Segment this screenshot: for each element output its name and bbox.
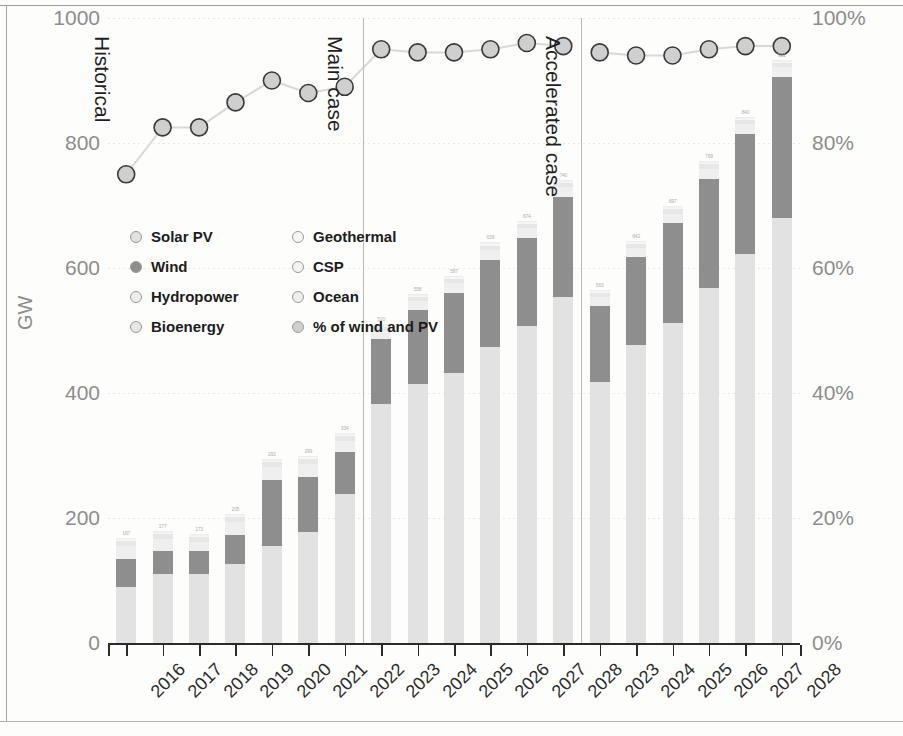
bar-stack: 563 bbox=[590, 290, 610, 643]
bar-segment-bioenergy bbox=[772, 63, 792, 67]
x-axis-tick bbox=[600, 645, 602, 656]
circle-marker-icon bbox=[292, 231, 304, 243]
bar-segment-geothermal bbox=[153, 533, 173, 534]
legend-item[interactable]: % of wind and PV bbox=[292, 318, 438, 335]
bar-segment-csp bbox=[116, 539, 136, 540]
bar-segment-geothermal bbox=[189, 536, 209, 537]
bar-segment-solar-pv bbox=[262, 546, 282, 644]
bar-value-label: 674 bbox=[523, 214, 531, 219]
x-axis-tick-label: 2023 bbox=[620, 659, 663, 702]
y-axis-left: 02004006008001000 bbox=[0, 0, 100, 736]
bar-segment-wind bbox=[262, 480, 282, 546]
page-frame-bottom-rule bbox=[0, 721, 903, 722]
x-axis-tick-label: 2017 bbox=[183, 659, 226, 702]
x-axis-tick-label: 2020 bbox=[293, 659, 336, 702]
bar-stack: 177 bbox=[153, 531, 173, 643]
legend-item[interactable]: Bioenergy bbox=[130, 318, 280, 335]
x-axis-tick bbox=[418, 645, 420, 656]
bar-segment-ocean bbox=[116, 538, 136, 539]
legend-item[interactable]: Geothermal bbox=[292, 228, 438, 245]
x-axis-end-tick bbox=[108, 645, 110, 656]
bar-segment-hydropower bbox=[663, 214, 683, 223]
bar-segment-hydropower bbox=[517, 228, 537, 238]
bar-segment-wind bbox=[116, 559, 136, 587]
bar-stack: 334 bbox=[335, 433, 355, 643]
bar-segment-ocean bbox=[663, 206, 683, 207]
legend-item[interactable]: Solar PV bbox=[130, 228, 280, 245]
bar-stack: 769 bbox=[699, 161, 719, 643]
bar-segment-bioenergy bbox=[153, 534, 173, 539]
bar-segment-ocean bbox=[517, 221, 537, 222]
bar-segment-solar-pv bbox=[335, 494, 355, 643]
bar-segment-wind bbox=[371, 339, 391, 405]
x-axis-tick bbox=[199, 645, 201, 656]
bar-segment-ocean bbox=[626, 241, 646, 242]
bar-segment-solar-pv bbox=[408, 384, 428, 643]
bar-stack: 840 bbox=[735, 117, 755, 643]
bar-segment-wind bbox=[590, 306, 610, 382]
bar-segment-hydropower bbox=[262, 467, 282, 480]
legend-item-label: Hydropower bbox=[151, 288, 239, 305]
x-axis-tick-label: 2016 bbox=[147, 659, 190, 702]
legend-item[interactable]: Hydropower bbox=[130, 288, 280, 305]
x-axis-tick bbox=[782, 645, 784, 656]
bar-segment-geothermal bbox=[444, 277, 464, 278]
bar-segment-hydropower bbox=[480, 250, 500, 260]
bar-stack: 292 bbox=[262, 459, 282, 643]
bar-segment-csp bbox=[189, 535, 209, 536]
legend-item-label: CSP bbox=[313, 258, 344, 275]
bar-segment-bioenergy bbox=[517, 224, 537, 228]
bar-segment-solar-pv bbox=[517, 326, 537, 644]
x-axis-tick bbox=[673, 645, 675, 656]
bar-segment-bioenergy bbox=[735, 120, 755, 124]
bar-segment-hydropower bbox=[590, 297, 610, 305]
bar-stack: 205 bbox=[225, 514, 245, 643]
x-axis-tick-label: 2018 bbox=[220, 659, 263, 702]
percent-line-marker bbox=[482, 41, 499, 58]
y-axis-right: 0%20%40%60%80%100% bbox=[812, 0, 902, 736]
y-axis-right-tick-label: 60% bbox=[812, 256, 854, 280]
bar-segment-solar-pv bbox=[189, 574, 209, 643]
bar-segment-solar-pv bbox=[663, 323, 683, 643]
page-frame-top-rule bbox=[0, 5, 903, 6]
legend-item[interactable]: Ocean bbox=[292, 288, 438, 305]
bar-stack: 931 bbox=[772, 60, 792, 643]
bar-segment-solar-pv bbox=[225, 564, 245, 643]
x-axis-tick bbox=[235, 645, 237, 656]
x-axis-tick-label: 2024 bbox=[657, 659, 700, 702]
bar-segment-geothermal bbox=[772, 62, 792, 63]
bar-segment-ocean bbox=[699, 161, 719, 162]
bar-segment-ocean bbox=[590, 290, 610, 291]
bar-stack: 639 bbox=[480, 242, 500, 643]
x-axis-tick bbox=[527, 645, 529, 656]
bar-segment-wind bbox=[517, 238, 537, 326]
percent-line-marker bbox=[700, 41, 717, 58]
x-axis-tick-label: 2021 bbox=[329, 659, 372, 702]
bar-segment-csp bbox=[335, 434, 355, 435]
bar-segment-geothermal bbox=[699, 163, 719, 164]
y-axis-left-tick-label: 200 bbox=[65, 506, 100, 530]
y-axis-right-tick-label: 40% bbox=[812, 381, 854, 405]
bar-value-label: 563 bbox=[596, 283, 604, 288]
bar-segment-wind bbox=[335, 452, 355, 494]
bar-segment-ocean bbox=[262, 459, 282, 460]
circle-marker-icon bbox=[292, 321, 304, 333]
bar-segment-wind bbox=[553, 197, 573, 297]
bar-stack: 697 bbox=[663, 206, 683, 643]
x-axis-tick bbox=[272, 645, 274, 656]
x-axis-tick bbox=[490, 645, 492, 656]
x-axis-tick-label: 2022 bbox=[365, 659, 408, 702]
bar-stack: 167 bbox=[116, 538, 136, 643]
gridline bbox=[108, 143, 800, 144]
scenario-caption: Main case bbox=[323, 36, 347, 132]
bar-stack: 299 bbox=[298, 456, 318, 644]
legend-item[interactable]: Wind bbox=[130, 258, 280, 275]
bar-value-label: 642 bbox=[632, 234, 640, 239]
percent-line-marker bbox=[518, 35, 535, 52]
legend-item[interactable]: CSP bbox=[292, 258, 438, 275]
bar-segment-solar-pv bbox=[590, 382, 610, 643]
bar-segment-solar-pv bbox=[699, 288, 719, 643]
x-axis-tick-label: 2027 bbox=[548, 659, 591, 702]
legend-item-label: Solar PV bbox=[151, 228, 213, 245]
x-axis-tick bbox=[745, 645, 747, 656]
